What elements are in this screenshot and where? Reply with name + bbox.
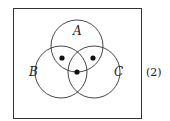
label-a: A (72, 24, 82, 38)
equation-number: (2) (146, 66, 162, 79)
label-c: C (114, 65, 123, 79)
dot-a-c (90, 55, 95, 60)
venn-diagram: A B C (2) (0, 0, 170, 121)
dot-a-b-c (74, 69, 79, 74)
dot-a-b (59, 55, 64, 60)
label-b: B (28, 65, 38, 79)
